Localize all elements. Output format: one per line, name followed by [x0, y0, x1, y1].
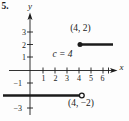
x-axis-label: x — [119, 62, 124, 72]
x-tick-labels: 1 2 3 4 5 6 — [42, 74, 105, 83]
y-tick-label-3: 3 — [22, 28, 26, 37]
y-tick-label-1: 1 — [22, 53, 26, 62]
lower-point-label: (4, −2) — [68, 98, 94, 109]
x-tick-label-6: 6 — [101, 74, 105, 83]
upper-point-label: (4, 2) — [70, 23, 91, 34]
y-tick-label-2: 2 — [22, 41, 26, 50]
x-tick-label-3: 3 — [65, 74, 69, 83]
problem-number: 5. — [2, 1, 9, 11]
x-tick-label-2: 2 — [54, 74, 58, 83]
x-tick-label-4: 4 — [77, 74, 81, 83]
graph-canvas: 5. y x 1 2 3 4 5 6 3 2 1 −1 −3 (4, 2) c … — [0, 0, 129, 121]
closed-endpoint — [78, 42, 83, 47]
coordinate-plane-figure: 5. y x 1 2 3 4 5 6 3 2 1 −1 −3 (4, 2) c … — [0, 0, 129, 121]
y-tick-label-neg3: −3 — [13, 104, 22, 113]
y-tick-label-neg1: −1 — [13, 79, 22, 88]
constant-label: c = 4 — [52, 49, 72, 59]
x-tick-label-5: 5 — [89, 74, 93, 83]
x-tick-label-1: 1 — [42, 74, 46, 83]
y-axis-label: y — [27, 1, 32, 11]
